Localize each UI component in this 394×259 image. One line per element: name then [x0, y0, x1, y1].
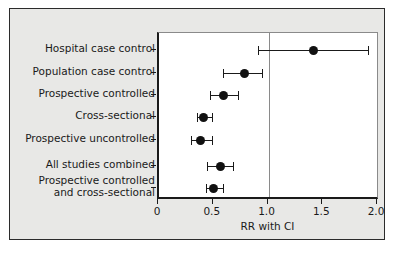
- y-axis-label: Hospital case control: [17, 43, 155, 55]
- x-axis-tick-label: 2.0: [368, 205, 385, 217]
- y-axis-tick: [151, 116, 156, 117]
- x-axis-title: RR with CI: [157, 220, 378, 232]
- point-estimate-marker: [199, 113, 208, 122]
- y-axis-tick: [151, 165, 156, 166]
- x-axis-tick: [212, 199, 213, 204]
- point-estimate-marker: [216, 162, 225, 171]
- reference-line-at-1: [269, 33, 270, 197]
- point-estimate-marker: [219, 91, 228, 100]
- y-axis-tick: [151, 139, 156, 140]
- x-axis-tick-label: 1.5: [313, 205, 330, 217]
- x-axis-tick: [157, 199, 158, 204]
- x-axis-tick-label: 1.0: [258, 205, 275, 217]
- ci-upper-cap: [262, 69, 263, 78]
- x-axis-tick-label: 0.5: [203, 205, 220, 217]
- y-axis-label: Population case control: [17, 66, 155, 78]
- point-estimate-marker: [240, 69, 249, 78]
- x-axis-tick: [267, 199, 268, 204]
- ci-lower-cap: [207, 162, 208, 171]
- ci-upper-cap: [233, 162, 234, 171]
- ci-lower-cap: [210, 91, 211, 100]
- point-estimate-marker: [196, 136, 205, 145]
- ci-upper-cap: [223, 184, 224, 193]
- ci-lower-cap: [197, 113, 198, 122]
- ci-upper-cap: [212, 113, 213, 122]
- x-axis-tick-label: 0: [154, 205, 161, 217]
- y-axis-tick: [151, 49, 156, 50]
- y-axis-tick: [151, 187, 156, 188]
- plot-area: [157, 32, 378, 199]
- figure-panel: Hospital case controlPopulation case con…: [9, 8, 385, 240]
- y-axis-tick: [151, 72, 156, 73]
- y-axis-label: Prospective controlled and cross-section…: [17, 175, 155, 198]
- y-axis-tick: [151, 94, 156, 95]
- forest-plot-figure: Hospital case controlPopulation case con…: [0, 0, 394, 259]
- y-axis-label: All studies combined: [17, 159, 155, 171]
- ci-upper-cap: [238, 91, 239, 100]
- ci-upper-cap: [368, 46, 369, 55]
- y-axis-label: Prospective uncontrolled: [17, 133, 155, 145]
- ci-lower-cap: [206, 184, 207, 193]
- ci-lower-cap: [191, 136, 192, 145]
- ci-lower-cap: [223, 69, 224, 78]
- x-axis-tick: [376, 199, 377, 204]
- y-axis-label-group: Hospital case controlPopulation case con…: [10, 9, 155, 199]
- y-axis-label: Prospective controlled: [17, 88, 155, 100]
- ci-lower-cap: [258, 46, 259, 55]
- point-estimate-marker: [209, 184, 218, 193]
- point-estimate-marker: [309, 46, 318, 55]
- ci-upper-cap: [212, 136, 213, 145]
- y-axis-label: Cross-sectional: [17, 110, 155, 122]
- x-axis-tick: [321, 199, 322, 204]
